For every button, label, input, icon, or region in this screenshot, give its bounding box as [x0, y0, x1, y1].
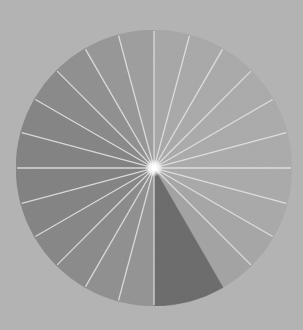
fixation-point: [151, 165, 157, 171]
radial-sector-disc: [0, 0, 303, 330]
stimulus-canvas: [0, 0, 303, 330]
